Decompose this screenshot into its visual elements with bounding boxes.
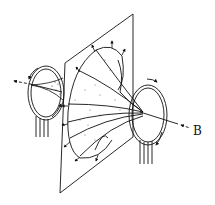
arrow-icon bbox=[75, 157, 80, 161]
tilted-plane bbox=[60, 14, 133, 193]
field-label-b: B bbox=[193, 124, 202, 138]
arrow-icon bbox=[64, 142, 70, 147]
current-arrow-icon bbox=[147, 79, 157, 82]
arrow-icon bbox=[96, 155, 98, 161]
left-coil bbox=[28, 66, 64, 137]
diagram-canvas bbox=[0, 0, 215, 205]
flux-horn bbox=[68, 47, 143, 158]
arrow-icon bbox=[122, 49, 125, 55]
right-coil bbox=[129, 79, 167, 164]
left-flux-wedge bbox=[31, 78, 63, 100]
arrow-icon bbox=[92, 45, 95, 52]
